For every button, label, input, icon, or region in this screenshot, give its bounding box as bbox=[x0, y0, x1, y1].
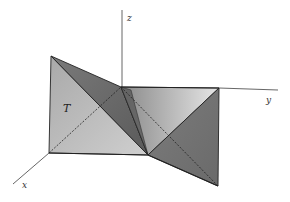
z-axis-label: z bbox=[126, 13, 132, 23]
x-axis-label: x bbox=[22, 180, 27, 190]
y-axis bbox=[219, 88, 278, 90]
y-axis-label: y bbox=[265, 95, 272, 105]
x-axis bbox=[13, 153, 49, 184]
tetrahedra-diagram: z y x T bbox=[0, 0, 290, 202]
